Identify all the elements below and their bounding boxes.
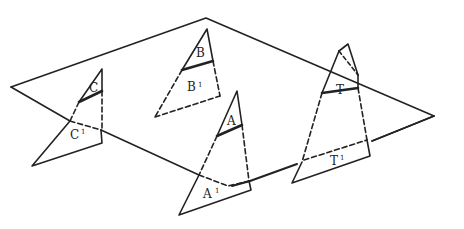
label-c: C: [89, 81, 98, 95]
label-t1: T: [330, 154, 338, 168]
triangle-t1: [292, 88, 370, 183]
plane-projection-diagram: B B 1 C C 1 A A 1 T T 1: [0, 0, 464, 229]
plane: [11, 18, 434, 186]
label-a: A: [226, 114, 236, 128]
diagram-canvas: B B 1 C C 1 A A 1 T T 1: [0, 0, 464, 229]
label-t1-sup: 1: [340, 154, 344, 162]
label-t: T: [336, 83, 344, 97]
label-b1: B: [187, 80, 196, 94]
label-c1: C: [70, 128, 79, 142]
label-b: B: [196, 46, 205, 60]
label-a1-sup: 1: [215, 187, 219, 195]
label-b1-sup: 1: [198, 81, 202, 89]
label-c1-sup: 1: [81, 128, 85, 136]
label-a1: A: [202, 187, 212, 201]
triangle-c1: [32, 91, 102, 166]
